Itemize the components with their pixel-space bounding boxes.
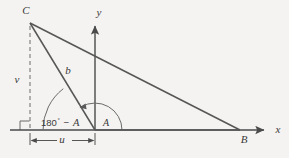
u-arrow-left-icon [31,138,37,143]
base-label-u: u [59,133,65,145]
geometry-figure: C B x y v b u 180 ° − A A [0,0,289,158]
side-label-b: b [65,64,71,76]
segment-C-to-B [30,23,240,130]
y-axis-label: y [96,6,102,18]
exterior-angle-number: 180 [41,117,57,128]
vertex-label-C: C [22,4,30,16]
right-angle-mark [20,121,30,130]
exterior-angle-label: 180 ° − A [41,117,80,129]
vertex-label-B: B [241,133,248,145]
x-axis-label: x [275,123,281,135]
degree-symbol: ° [58,117,61,123]
diagram-canvas: C B x y v b u 180 ° − A A [0,0,289,158]
u-arrow-right-icon [88,138,94,143]
height-label-v: v [15,73,20,85]
exterior-angle-operator: − [64,117,70,128]
exterior-angle-variable: A [72,117,80,128]
interior-angle-label-A: A [102,117,110,128]
